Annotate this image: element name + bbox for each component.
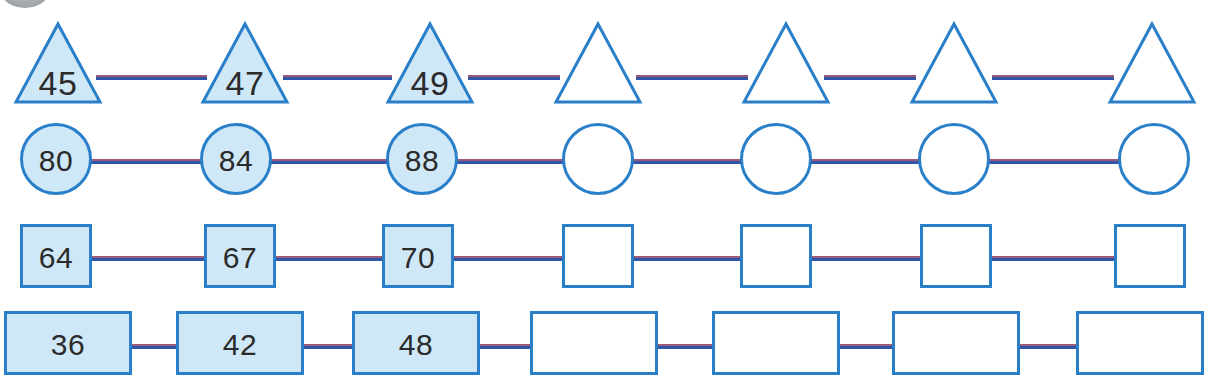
rectangle-sequence-row: 364248: [0, 0, 1220, 383]
rectangle-cell-empty[interactable]: [1076, 311, 1204, 375]
connector-line: [1014, 344, 1082, 349]
rectangle-cell-filled[interactable]: 48: [352, 311, 480, 375]
rectangle-cell-empty[interactable]: [712, 311, 840, 375]
cell-value: 48: [355, 330, 477, 360]
worksheet-canvas: 454749 808488 646770 364248: [0, 0, 1220, 383]
cell-value: 42: [179, 330, 301, 360]
cell-value: 36: [7, 330, 129, 360]
connector-line: [298, 344, 358, 349]
connector-line: [126, 344, 182, 349]
connector-line: [652, 344, 718, 349]
connector-line: [474, 344, 536, 349]
rectangle-cell-filled[interactable]: 42: [176, 311, 304, 375]
rectangle-cell-empty[interactable]: [530, 311, 658, 375]
rectangle-cell-empty[interactable]: [892, 311, 1020, 375]
rectangle-cell-filled[interactable]: 36: [4, 311, 132, 375]
connector-line: [834, 344, 898, 349]
